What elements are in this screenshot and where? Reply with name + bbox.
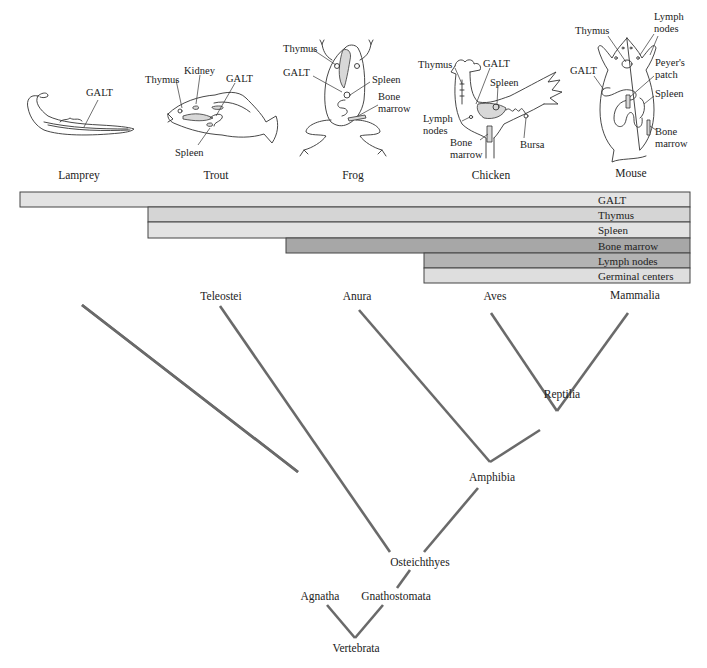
chicken-illustration: Thymus GALT Spleen Lymph nodes Bone marr… bbox=[418, 58, 562, 181]
taxon-gnathostomata: Gnathostomata bbox=[361, 590, 431, 602]
trout-kidney-label: Kidney bbox=[184, 65, 216, 76]
bar-label-thymus: Thymus bbox=[598, 209, 634, 221]
trout-drawing bbox=[168, 92, 278, 143]
frog-illustration: Thymus GALT Spleen Bone marrow Frog bbox=[283, 40, 411, 182]
taxon-osteichthyes: Osteichthyes bbox=[390, 556, 450, 569]
branch-amphibia-osteichthyes bbox=[424, 488, 478, 552]
chicken-bursa-leader bbox=[524, 118, 526, 138]
frog-galt-label: GALT bbox=[283, 67, 311, 78]
mouse-peyers-label: Peyer's bbox=[655, 57, 685, 68]
mouse-drawing bbox=[598, 38, 656, 162]
branch-teleostei bbox=[220, 306, 390, 552]
chicken-galt-leader bbox=[476, 68, 490, 104]
organ-presence-bars: GALT Thymus Spleen Bone marrow Lymph nod… bbox=[20, 192, 690, 283]
bar-label-galt: GALT bbox=[598, 194, 627, 206]
lamprey-galt-label: GALT bbox=[86, 87, 114, 98]
chicken-marrow-label: marrow bbox=[450, 149, 483, 160]
lamprey-galt-leader bbox=[84, 100, 98, 127]
chicken-thymus-label: Thymus bbox=[418, 59, 452, 70]
taxon-agnatha: Agnatha bbox=[301, 590, 340, 603]
chicken-lymph-label: Lymph bbox=[423, 113, 454, 124]
taxon-anura: Anura bbox=[343, 290, 372, 302]
chicken-bursa-label: Bursa bbox=[520, 139, 545, 150]
chicken-spleen-label: Spleen bbox=[490, 77, 519, 88]
taxon-aves: Aves bbox=[484, 290, 507, 302]
bar-label-spleen: Spleen bbox=[598, 224, 628, 236]
mouse-thymus-label: Thymus bbox=[575, 25, 609, 36]
frog-spleen-leader bbox=[350, 82, 370, 95]
bar-galt bbox=[20, 192, 690, 207]
lamprey-illustration: GALT Lamprey bbox=[27, 87, 134, 182]
branch-osteichthyes-gnathostomata bbox=[397, 570, 410, 588]
trout-kidney-leader bbox=[196, 75, 200, 104]
trout-galt-leader bbox=[216, 83, 235, 116]
immune-organ-evolution-diagram: GALT Lamprey Thymus Kidney GALT Spleen T… bbox=[0, 0, 707, 668]
mouse-spleen-label: Spleen bbox=[655, 88, 684, 99]
mouse-spleen-leader bbox=[644, 96, 654, 104]
taxon-mammalia: Mammalia bbox=[610, 289, 660, 301]
trout-illustration: Thymus Kidney GALT Spleen Trout bbox=[145, 65, 278, 181]
chicken-galt-label: GALT bbox=[483, 58, 511, 69]
animal-name-chicken: Chicken bbox=[472, 169, 511, 181]
taxon-teleostei: Teleostei bbox=[200, 290, 241, 302]
bar-label-bone-marrow: Bone marrow bbox=[598, 240, 658, 252]
chicken-bone-label: Bone bbox=[450, 137, 473, 148]
branch-gnathostomata-vertebrata bbox=[355, 605, 383, 638]
mouse-nodes-label: nodes bbox=[654, 23, 679, 34]
frog-drawing bbox=[300, 40, 386, 156]
frog-galt-leader bbox=[313, 76, 342, 92]
animal-name-trout: Trout bbox=[203, 169, 229, 181]
mouse-galt-label: GALT bbox=[570, 65, 598, 76]
mouse-lymph-nodes-leader-2 bbox=[650, 36, 658, 55]
bar-label-germinal-centers: Germinal centers bbox=[598, 270, 673, 282]
mouse-patch-label: patch bbox=[655, 69, 678, 80]
trout-galt-label: GALT bbox=[226, 73, 254, 84]
mouse-bone-label: Bone bbox=[655, 126, 678, 137]
trout-spleen-leader bbox=[198, 128, 210, 145]
chicken-nodes-label: nodes bbox=[423, 125, 448, 136]
frog-marrow-label: marrow bbox=[378, 103, 411, 114]
animal-name-mouse: Mouse bbox=[615, 167, 646, 179]
frog-thymus-label: Thymus bbox=[283, 43, 317, 54]
animal-name-lamprey: Lamprey bbox=[58, 169, 100, 182]
mouse-illustration: Thymus Lymph nodes GALT Peyer's patch Sp… bbox=[570, 11, 688, 179]
trout-spleen-label: Spleen bbox=[175, 147, 204, 158]
branch-reptilia-amphibia bbox=[490, 430, 540, 462]
chicken-lymph-nodes-leader bbox=[462, 117, 470, 121]
taxon-amphibia: Amphibia bbox=[469, 471, 515, 484]
frog-bone-label: Bone bbox=[378, 91, 401, 102]
mouse-peyers-patch-leader bbox=[630, 76, 654, 97]
taxon-reptilia: Reptilia bbox=[544, 388, 580, 401]
phylogenetic-tree: Teleostei Anura Aves Mammalia Reptilia A… bbox=[82, 289, 660, 654]
branch-agnatha-lower bbox=[82, 305, 298, 472]
mouse-marrow-label: marrow bbox=[655, 138, 688, 149]
branch-anura bbox=[359, 310, 490, 462]
lamprey-drawing bbox=[27, 93, 134, 135]
taxon-vertebrata: Vertebrata bbox=[332, 642, 379, 654]
animal-name-frog: Frog bbox=[342, 169, 364, 182]
frog-spleen-label: Spleen bbox=[372, 74, 401, 85]
trout-thymus-label: Thymus bbox=[145, 74, 179, 85]
mouse-galt-leader bbox=[594, 76, 604, 90]
mouse-lymph-label: Lymph bbox=[654, 11, 685, 22]
bar-label-lymph-nodes: Lymph nodes bbox=[598, 255, 658, 267]
branch-agnatha-vertebrata bbox=[327, 605, 355, 638]
